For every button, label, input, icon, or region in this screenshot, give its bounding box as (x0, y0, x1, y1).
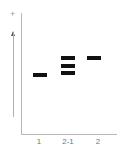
lane-2-1-band-1 (61, 56, 75, 60)
lane-label-2: 2 (96, 137, 100, 146)
y-axis-line (21, 13, 22, 134)
lane-1-band-1 (33, 73, 47, 77)
lane-2-band-1 (87, 56, 101, 60)
migration-arrow-line (13, 33, 14, 117)
lane-label-1: 1 (37, 137, 41, 146)
plus-polarity-label: + (10, 10, 15, 19)
lane-2-1-band-2 (61, 64, 75, 68)
lane-label-2-1: 2-1 (62, 137, 74, 146)
lane-2-1-band-3 (61, 71, 75, 75)
x-axis-line (21, 134, 117, 135)
